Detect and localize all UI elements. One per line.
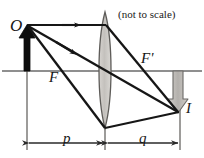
object-distance-label: p bbox=[63, 131, 71, 146]
not-to-scale-note: (not to scale) bbox=[118, 9, 175, 20]
focal-point-far-label: F' bbox=[141, 51, 153, 66]
ray-diagram-canvas bbox=[0, 0, 204, 158]
optics-ray-diagram: O F F' I p q (not to scale) bbox=[0, 0, 204, 158]
focal-point-near-label: F bbox=[49, 70, 58, 85]
image-distance-label: q bbox=[139, 131, 147, 146]
image-label: I bbox=[186, 101, 191, 116]
object-label: O bbox=[10, 17, 22, 34]
